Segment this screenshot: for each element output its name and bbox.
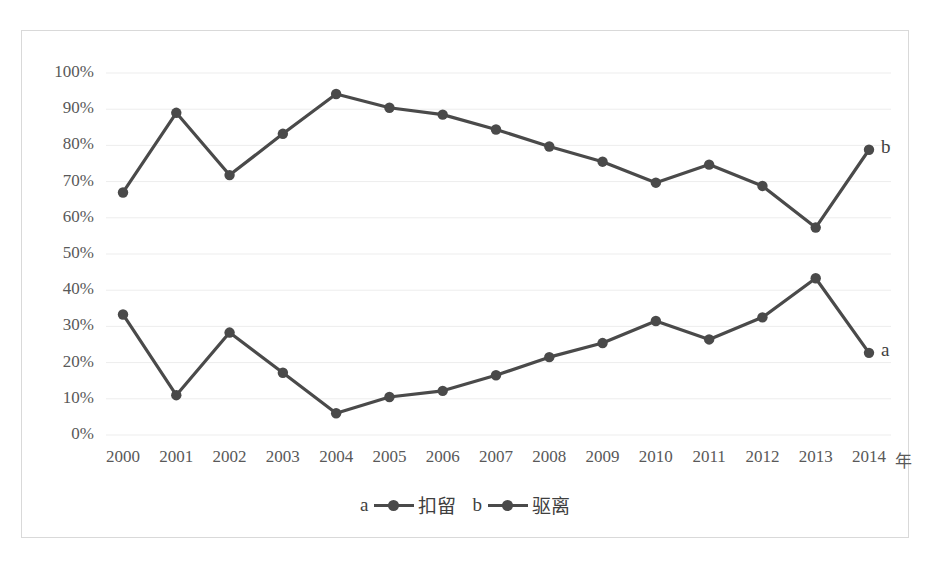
series-line-b (123, 94, 869, 228)
x-axis-tick-label: 2005 (359, 447, 419, 467)
data-point-marker[interactable] (171, 390, 181, 400)
data-point-marker[interactable] (597, 156, 607, 166)
data-point-marker[interactable] (757, 312, 767, 322)
data-point-marker[interactable] (118, 309, 128, 319)
y-axis-tick-label: 80% (63, 134, 94, 154)
data-point-marker[interactable] (544, 141, 554, 151)
x-axis-tick-label: 2014 (839, 447, 899, 467)
legend-key-b: b (472, 494, 482, 516)
y-axis-tick-label: 50% (63, 243, 94, 263)
data-point-marker[interactable] (384, 392, 394, 402)
data-point-marker[interactable] (651, 316, 661, 326)
legend-item-b[interactable]: b 驱离 (472, 491, 570, 518)
data-point-marker[interactable] (491, 370, 501, 380)
data-point-marker[interactable] (491, 124, 501, 134)
data-point-marker[interactable] (171, 108, 181, 118)
x-axis-unit-label: 年 (895, 447, 912, 472)
data-point-marker[interactable] (278, 368, 288, 378)
data-point-marker[interactable] (224, 170, 234, 180)
y-axis-tick-label: 90% (63, 98, 94, 118)
data-point-marker[interactable] (331, 408, 341, 418)
data-point-marker[interactable] (811, 273, 821, 283)
legend-key-a: a (360, 494, 368, 516)
data-point-marker[interactable] (757, 181, 767, 191)
y-axis-tick-label: 30% (63, 315, 94, 335)
x-axis-tick-label: 2001 (146, 447, 206, 467)
x-axis-tick-label: 2006 (413, 447, 473, 467)
x-axis-tick-label: 2007 (466, 447, 526, 467)
chart-frame: 0%10%20%30%40%50%60%70%80%90%100% 200020… (21, 30, 909, 538)
legend-item-a[interactable]: a 扣留 (360, 491, 456, 518)
data-point-marker[interactable] (438, 386, 448, 396)
data-point-marker[interactable] (811, 222, 821, 232)
y-axis-tick-label: 10% (63, 388, 94, 408)
data-point-marker[interactable] (704, 334, 714, 344)
x-axis-tick-label: 2011 (679, 447, 739, 467)
data-point-marker[interactable] (544, 352, 554, 362)
data-point-marker[interactable] (704, 159, 714, 169)
legend-line-marker-icon-a (374, 498, 414, 512)
x-axis-tick-label: 2012 (732, 447, 792, 467)
data-point-marker[interactable] (331, 89, 341, 99)
legend-label-b: 驱离 (532, 491, 570, 518)
legend-line-marker-icon-b (488, 498, 528, 512)
x-axis-tick-label: 2010 (626, 447, 686, 467)
data-point-marker[interactable] (118, 187, 128, 197)
chart-legend: a 扣留 b 驱离 (22, 491, 908, 518)
x-axis-tick-label: 2009 (573, 447, 633, 467)
data-point-marker[interactable] (438, 109, 448, 119)
data-point-marker[interactable] (597, 338, 607, 348)
legend-label-a: 扣留 (418, 491, 456, 518)
x-axis-tick-label: 2008 (519, 447, 579, 467)
series-end-label-a: a (881, 339, 889, 361)
series-line-a (123, 278, 869, 413)
data-point-marker[interactable] (224, 327, 234, 337)
x-axis-tick-label: 2002 (200, 447, 260, 467)
x-axis-tick-label: 2000 (93, 447, 153, 467)
series-end-label-b: b (881, 136, 891, 158)
y-axis-tick-label: 20% (63, 352, 94, 372)
data-point-marker[interactable] (278, 129, 288, 139)
x-axis-tick-label: 2004 (306, 447, 366, 467)
data-point-marker[interactable] (864, 145, 874, 155)
x-axis-tick-label: 2003 (253, 447, 313, 467)
y-axis-tick-label: 100% (54, 62, 94, 82)
y-axis-tick-label: 70% (63, 171, 94, 191)
data-point-marker[interactable] (384, 103, 394, 113)
x-axis-tick-label: 2013 (786, 447, 846, 467)
y-axis-tick-label: 0% (71, 424, 94, 444)
y-axis-tick-label: 60% (63, 207, 94, 227)
data-point-marker[interactable] (651, 177, 661, 187)
y-axis-tick-label: 40% (63, 279, 94, 299)
data-point-marker[interactable] (864, 348, 874, 358)
